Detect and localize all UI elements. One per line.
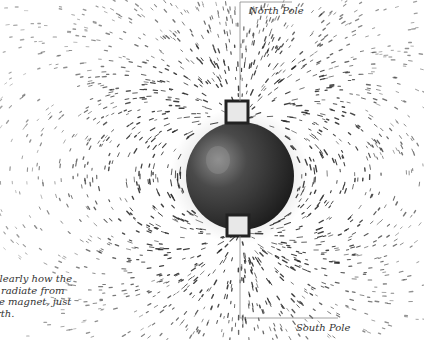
south-leader-line [240,236,338,318]
caption-line: clearly how the [0,273,72,285]
caption-line: radiate from [0,285,72,297]
figure-caption: clearly how the radiate from e magnet, j… [0,273,72,319]
north-pole-label: North Pole [249,5,304,16]
south-pole-label: South Pole [296,322,350,333]
north-leader-line [240,2,292,101]
south-pole-block [227,215,249,236]
magnet-figure: North Pole South Pole clearly how the ra… [0,0,424,340]
caption-line: e magnet, just [0,296,72,308]
caption-line: rth. [0,308,72,320]
north-pole-block [226,101,248,123]
